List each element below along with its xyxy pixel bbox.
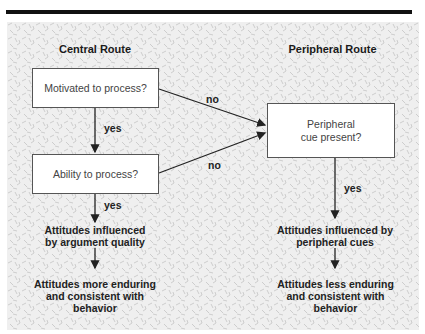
yes-label-central-1: yes bbox=[104, 122, 122, 134]
peripheral-outcome-cues: Attitudes influenced by peripheral cues bbox=[275, 224, 395, 248]
peripheral-cue-box: Peripheral cue present? bbox=[267, 103, 395, 158]
peripheral-outcome-less-enduring: Attitudes less enduring and consistent w… bbox=[268, 278, 403, 314]
no-label-bottom: no bbox=[208, 159, 221, 171]
central-outcome-more-enduring: Attitudes more enduring and consistent w… bbox=[30, 278, 160, 314]
motivated-to-process-box: Motivated to process? bbox=[32, 68, 159, 108]
yes-label-peripheral: yes bbox=[344, 182, 362, 194]
no-label-top: no bbox=[206, 93, 219, 105]
yes-label-central-2: yes bbox=[104, 199, 122, 211]
central-outcome-argument-quality: Attitudes influenced by argument quality bbox=[40, 224, 150, 248]
ability-to-process-box: Ability to process? bbox=[32, 154, 159, 194]
